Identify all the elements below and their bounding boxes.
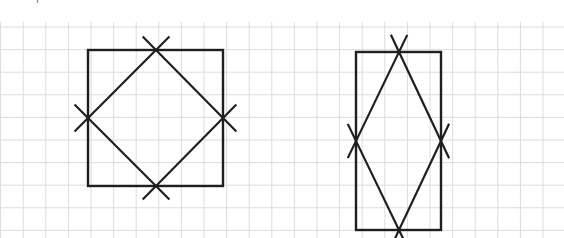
right-inscribed-rhombus xyxy=(348,35,449,238)
geometry-figures-layer xyxy=(0,0,564,238)
square-with-inscribed-diamond xyxy=(75,36,237,199)
left-inscribed-diamond xyxy=(75,36,237,199)
figure-canvas: | xyxy=(0,0,564,238)
right-outer-rectangle xyxy=(356,52,441,230)
rectangle-with-inscribed-rhombus xyxy=(348,35,449,238)
left-outer-square xyxy=(88,50,223,186)
